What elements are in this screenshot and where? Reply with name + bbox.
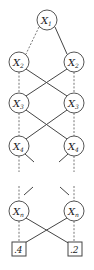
bdd-diagram: X 1 X 2 X 2 X 3 X 3 X 4 X 4 X n X n [0,0,94,270]
node-xn-left: X n [9,201,29,221]
node-x3-right: X 3 [64,93,84,113]
edge-x4l-partial-solid [25,154,34,162]
terminal-right: .2 [68,242,82,256]
edge-xnr-partial-solid [60,187,69,195]
svg-text:.2: .2 [70,245,79,255]
edge-xnl-partial-solid [24,187,33,195]
svg-text:3: 3 [20,103,24,110]
node-x3-left: X 3 [9,93,29,113]
svg-text:4: 4 [74,146,79,153]
svg-text:2: 2 [74,62,79,69]
edge-x1-x2r-solid [55,27,67,54]
edge-x1-x2l-dashed [26,27,39,54]
edge-xnl-t-right-solid [26,218,70,244]
edge-x4r-partial-solid [59,154,68,162]
node-x4-right: X 4 [64,136,84,156]
node-x2-right: X 2 [64,52,84,72]
node-x4-left: X 4 [9,136,29,156]
svg-text:2: 2 [19,62,24,69]
svg-text:.4: .4 [14,245,23,255]
svg-text:4: 4 [19,146,24,153]
node-xn-right: X n [64,201,84,221]
svg-text:1: 1 [48,20,52,27]
edge-xnr-t-left-solid [23,218,67,244]
terminal-left: .4 [12,242,26,256]
node-x1: X 1 [37,10,57,30]
svg-text:n: n [20,211,24,218]
svg-text:n: n [75,211,79,218]
svg-text:3: 3 [75,103,79,110]
node-x2-left: X 2 [9,52,29,72]
